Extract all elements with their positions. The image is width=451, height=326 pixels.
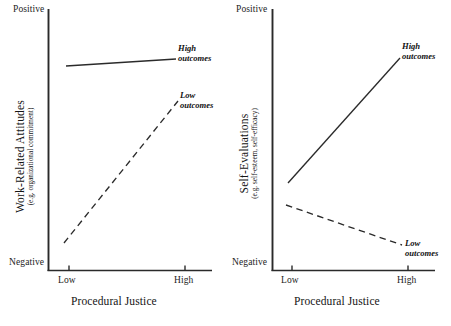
left-x-axis-title: Procedural Justice (71, 295, 157, 307)
right-y-axis-subtitle: (e.g. self-esteem, self-efficacy) (251, 71, 259, 236)
right-series-low-outcomes-line (286, 205, 402, 245)
left-series-high-outcomes-line (66, 59, 176, 66)
right-x-tick-label-low: Low (281, 276, 299, 286)
figure-two-panel-interaction-plots: Positive Negative Work-Related Attitudes… (0, 0, 451, 326)
right-series-low-outcomes-label: Low outcomes (405, 239, 438, 258)
left-y-axis-subtitle: (e.g. organizational commitment) (27, 69, 35, 244)
right-x-tick-label-high: High (397, 276, 416, 286)
right-y-axis-title-group: Self-Evaluations (e.g. self-esteem, self… (238, 71, 259, 236)
left-y-axis-title: Work-Related Attitudes (14, 69, 26, 244)
right-x-axis-title: Procedural Justice (294, 295, 380, 307)
chart-panel-right: Positive Negative Self-Evaluations (e.g.… (225, 0, 451, 326)
left-y-bottom-label: Negative (9, 258, 44, 268)
left-y-axis-title-group: Work-Related Attitudes (e.g. organizatio… (14, 69, 35, 244)
left-series-high-outcomes-label: High outcomes (178, 44, 211, 63)
right-series-low-outcomes-label-line2: outcomes (405, 249, 438, 259)
left-series-low-outcomes-label: Low outcomes (180, 91, 213, 110)
left-x-tick-label-low: Low (58, 276, 76, 286)
right-y-axis-title: Self-Evaluations (238, 71, 250, 236)
left-x-tick-label-high: High (174, 276, 193, 286)
left-series-low-outcomes-line (64, 101, 178, 243)
right-series-high-outcomes-label-line2: outcomes (402, 52, 435, 62)
left-series-low-outcomes-label-line2: outcomes (180, 101, 213, 111)
left-y-top-label: Positive (13, 5, 44, 15)
right-y-top-label: Positive (236, 5, 267, 15)
right-series-high-outcomes-label: High outcomes (402, 42, 435, 61)
left-series-high-outcomes-label-line2: outcomes (178, 54, 211, 64)
right-y-bottom-label: Negative (232, 258, 267, 268)
chart-panel-left: Positive Negative Work-Related Attitudes… (0, 0, 226, 326)
right-series-high-outcomes-line (288, 58, 400, 183)
